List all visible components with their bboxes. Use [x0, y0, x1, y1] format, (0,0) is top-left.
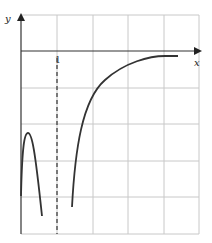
y-axis-label: y: [4, 13, 11, 24]
chart: y x 1: [0, 0, 212, 243]
right-branch-curve: [72, 56, 178, 207]
x-axis: [21, 47, 202, 55]
x-axis-label: x: [194, 57, 200, 68]
tick-label-1: 1: [55, 55, 61, 65]
grid: [21, 15, 199, 234]
left-branch-curve: [21, 133, 42, 216]
